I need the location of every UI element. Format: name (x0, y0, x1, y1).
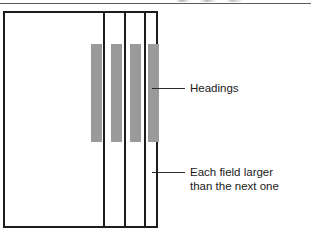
headings-leader-line (152, 88, 185, 89)
headings-callout-label: Headings (190, 81, 239, 95)
top-horizontal-rule (0, 3, 311, 4)
heading-bar-4 (148, 44, 159, 142)
field-divider-2 (124, 13, 126, 226)
field-size-leader-line (152, 172, 185, 173)
heading-bar-1 (91, 44, 102, 142)
record-diagram-box (3, 11, 158, 228)
heading-bar-3 (130, 44, 141, 142)
heading-bar-2 (111, 44, 122, 142)
field-divider-1 (103, 13, 105, 226)
field-size-callout-label-line2: than the next one (190, 179, 279, 193)
field-size-callout-label-line1: Each field larger (190, 165, 273, 179)
cropped-caption-text-remnant (176, 0, 246, 2)
field-divider-3 (144, 13, 146, 226)
